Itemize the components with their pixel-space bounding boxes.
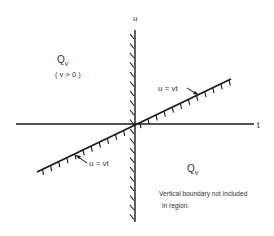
hatch-mark [124, 131, 125, 137]
hatch-mark [130, 91, 134, 96]
hatch-mark [42, 169, 43, 175]
hatch-mark [180, 103, 181, 109]
boundary-label-upper: u = vt [158, 84, 179, 93]
hatch-mark [51, 166, 52, 172]
hatch-mark [130, 129, 134, 134]
lower-region-subscript: v [195, 169, 199, 176]
hatch-mark [130, 186, 134, 191]
boundary-line-u-equals-vt [37, 79, 231, 172]
hatch-mark [130, 82, 134, 87]
hatch-mark [130, 148, 134, 153]
arrowhead-upper-icon [193, 91, 199, 95]
hatch-mark [75, 154, 76, 160]
hatch-mark [130, 167, 134, 172]
hatch-mark [130, 196, 134, 201]
hatch-mark [130, 101, 134, 106]
hatch-mark [221, 84, 222, 90]
lower-region-note-line1: Vertical boundary not included [159, 190, 248, 198]
hatch-mark [107, 138, 108, 144]
hatch-mark [115, 134, 116, 140]
hatch-mark [130, 53, 134, 58]
lower-region-note-line2: in region. [162, 202, 189, 210]
t-axis-label: t [257, 120, 260, 130]
hatch-mark [130, 110, 134, 115]
boundary-arrow-upper [187, 88, 195, 93]
hatch-mark [130, 205, 134, 210]
hatch-mark [130, 158, 134, 163]
hatch-mark [172, 107, 173, 113]
hatch-mark [213, 88, 214, 94]
hatch-mark [130, 139, 134, 144]
hatch-mark [99, 142, 100, 148]
boundary-hatching [42, 80, 230, 175]
hatch-mark [67, 158, 68, 164]
upper-region-label: Qv [57, 54, 69, 67]
upper-region-condition: ( v > 0 ) [55, 70, 81, 79]
hatch-mark [130, 63, 134, 68]
hatch-mark [130, 44, 134, 49]
hatch-mark [83, 150, 84, 156]
hatch-mark [91, 146, 92, 152]
hatch-mark [156, 115, 157, 121]
hatch-mark [130, 177, 134, 182]
hatch-mark [130, 34, 134, 39]
hatch-mark [164, 111, 165, 117]
lower-region-label: Qv [187, 163, 199, 176]
hatch-mark [229, 80, 230, 86]
hatch-mark [188, 99, 189, 105]
hatch-mark [197, 95, 198, 101]
region-diagram: t u u = vt u = vt Qv ( v > 0 ) Qv Vertic… [0, 0, 274, 236]
upper-region-subscript: v [65, 60, 69, 67]
hatch-mark [130, 215, 134, 220]
hatch-mark [205, 92, 206, 98]
hatch-mark [130, 72, 134, 77]
hatch-mark [59, 162, 60, 168]
u-axis-label: u [133, 14, 137, 23]
boundary-label-lower: u = vt [89, 159, 110, 168]
